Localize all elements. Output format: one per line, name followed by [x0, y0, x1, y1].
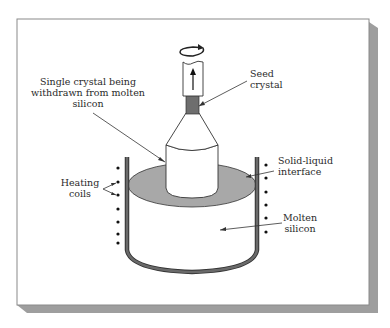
label-heating-line1: Heating — [61, 177, 100, 188]
label-single-crystal-line3: silicon — [72, 98, 103, 109]
label-heating-line2: coils — [69, 188, 91, 199]
label-molten-line1: Molten — [283, 212, 317, 223]
seed-crystal — [186, 95, 199, 114]
label-molten-line2: silicon — [284, 223, 315, 234]
label-seed-line1: Seed — [250, 68, 274, 79]
label-single-crystal-line1: Single crystal being — [40, 76, 136, 87]
label-seed-line2: crystal — [250, 79, 283, 90]
czochralski-diagram: Single crystal being withdrawn from molt… — [0, 0, 390, 328]
diagram-stage: Single crystal being withdrawn from molt… — [0, 0, 390, 328]
label-single-crystal-line2: withdrawn from molten — [31, 87, 145, 98]
label-interface-line1: Solid-liquid — [278, 155, 333, 166]
crystal-cylinder — [166, 145, 218, 198]
label-interface-line2: interface — [278, 166, 322, 177]
